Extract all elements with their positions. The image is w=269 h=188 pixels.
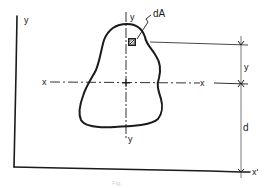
centroid-x-axis-left-label: x — [42, 77, 47, 87]
centroid-y-axis-top-label: y — [130, 12, 135, 22]
reference-x-prime-axis-line — [14, 167, 250, 172]
area-boundary — [80, 24, 162, 127]
figure-caption: Fig. — [112, 180, 122, 186]
outer-y-axis-line — [14, 16, 17, 167]
centroid-y-axis-bottom-label: y — [128, 134, 133, 144]
dim-y-label: y — [244, 62, 249, 72]
parallel-axis-diagram: y x' y y x x dA y d Fig. — [0, 0, 269, 188]
outer-y-axis-label: y — [24, 15, 29, 25]
dim-d-label: d — [243, 122, 249, 133]
reference-x-prime-axis-label: x' — [252, 167, 259, 177]
centroid-x-axis-right-label: x — [200, 78, 205, 88]
dA-element — [128, 38, 136, 46]
centroid-x-axis-extension — [214, 83, 248, 84]
dA-extension-line — [150, 42, 248, 45]
dA-label: dA — [153, 8, 166, 19]
